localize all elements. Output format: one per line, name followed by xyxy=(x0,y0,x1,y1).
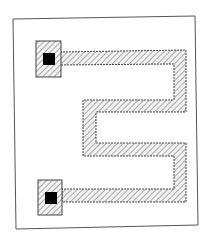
serpentine-resistor-diagram xyxy=(0,0,220,247)
bottom-contact xyxy=(45,192,57,204)
top-contact xyxy=(43,53,55,65)
resistor-trace xyxy=(60,50,186,202)
